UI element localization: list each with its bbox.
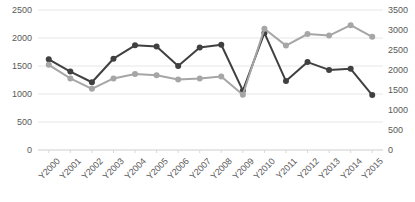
data-point: [67, 69, 73, 75]
chart-container: 0500100015002000250005001000150020002500…: [0, 0, 415, 202]
data-point: [175, 77, 181, 83]
data-point: [218, 42, 224, 48]
data-point: [89, 86, 95, 92]
left-axis-tick-label: 1000: [0, 89, 32, 99]
data-point: [305, 59, 311, 65]
data-point: [283, 43, 289, 49]
right-axis-tick-label: 0: [388, 145, 415, 155]
right-axis-tick-label: 3000: [388, 25, 415, 35]
series-line-gray-series: [49, 25, 372, 95]
data-point: [132, 71, 138, 77]
right-axis-tick-label: 2500: [388, 45, 415, 55]
data-point: [197, 45, 203, 51]
left-axis-tick-label: 500: [0, 117, 32, 127]
right-axis-tick-label: 500: [388, 125, 415, 135]
data-point: [110, 75, 116, 81]
data-point: [369, 92, 375, 98]
data-point: [348, 66, 354, 72]
data-point: [326, 33, 332, 39]
data-point: [348, 22, 354, 28]
left-axis-tick-label: 2500: [0, 5, 32, 15]
data-point: [240, 92, 246, 98]
data-point: [154, 43, 160, 49]
data-point: [261, 26, 267, 32]
data-point: [175, 63, 181, 69]
right-axis-tick-label: 1000: [388, 105, 415, 115]
data-point: [46, 56, 52, 62]
data-point: [369, 34, 375, 40]
data-point: [110, 56, 116, 62]
data-point: [89, 79, 95, 85]
data-point: [305, 31, 311, 37]
left-axis-tick-label: 1500: [0, 61, 32, 71]
data-point: [326, 67, 332, 73]
left-axis-tick-label: 0: [0, 145, 32, 155]
data-point: [132, 42, 138, 48]
right-axis-tick-label: 1500: [388, 85, 415, 95]
data-point: [46, 62, 52, 68]
data-point: [197, 75, 203, 81]
data-point: [154, 72, 160, 78]
right-axis-tick-label: 3500: [388, 5, 415, 15]
right-axis-tick-label: 2000: [388, 65, 415, 75]
left-axis-tick-label: 2000: [0, 33, 32, 43]
data-point: [67, 75, 73, 81]
data-point: [283, 78, 289, 84]
data-point: [218, 73, 224, 79]
